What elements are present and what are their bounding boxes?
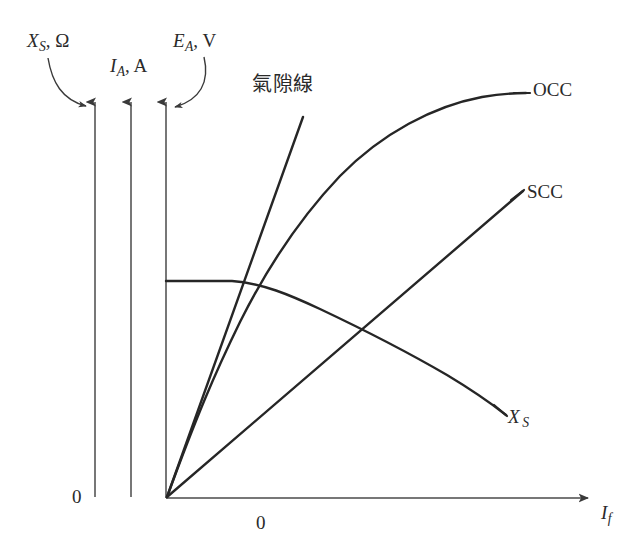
xs-curve bbox=[166, 281, 506, 415]
if-axis-label: If bbox=[601, 503, 612, 522]
scc-curve bbox=[167, 191, 523, 497]
xs-leader-line bbox=[494, 405, 507, 416]
curves-group bbox=[166, 93, 526, 497]
xs-axis-label-unit: Ω bbox=[55, 30, 69, 51]
leader-lines-group bbox=[494, 93, 530, 416]
ia-axis-label: IA, A bbox=[110, 56, 147, 75]
occ-curve bbox=[167, 93, 526, 497]
ea-axis-label-symbol: E bbox=[173, 30, 185, 51]
ea-axis-label-unit: V bbox=[203, 30, 217, 51]
xs-curve-label-symbol: X bbox=[508, 406, 520, 427]
occ-curve-label: OCC bbox=[533, 80, 572, 99]
figure-container: XS, Ω IA, A EA, V 氣隙線 OCC SCC XS If 0 0 bbox=[0, 0, 637, 560]
horizontal-axis-zero-label: 0 bbox=[256, 513, 266, 532]
airgap-line-label: 氣隙線 bbox=[252, 74, 314, 94]
xs-curve-label-subscript: S bbox=[520, 415, 529, 430]
ea-axis-label-separator: , bbox=[193, 30, 202, 51]
xs-axis-label-subscript: S bbox=[39, 39, 46, 54]
if-axis-label-subscript: f bbox=[607, 511, 611, 526]
xs-axis-label-separator: , bbox=[46, 30, 56, 51]
scc-curve-label: SCC bbox=[527, 182, 563, 201]
xs-axis-pointer-arrow bbox=[48, 58, 86, 106]
ia-axis-label-separator: , bbox=[125, 55, 133, 76]
ea-axis-label: EA, V bbox=[173, 31, 216, 50]
xs-axis-label: XS, Ω bbox=[27, 31, 69, 50]
xs-curve-label: XS bbox=[508, 407, 529, 426]
ea-axis-label-subscript: A bbox=[185, 39, 194, 54]
vertical-axes-zero-label: 0 bbox=[72, 487, 82, 506]
xs-axis-label-symbol: X bbox=[27, 30, 39, 51]
ea-axis-pointer-arrow bbox=[175, 57, 206, 107]
ia-axis-label-unit: A bbox=[134, 55, 148, 76]
ia-axis-label-subscript: A bbox=[116, 64, 125, 79]
axes-group bbox=[95, 102, 588, 498]
scc-leader-line bbox=[511, 190, 524, 200]
